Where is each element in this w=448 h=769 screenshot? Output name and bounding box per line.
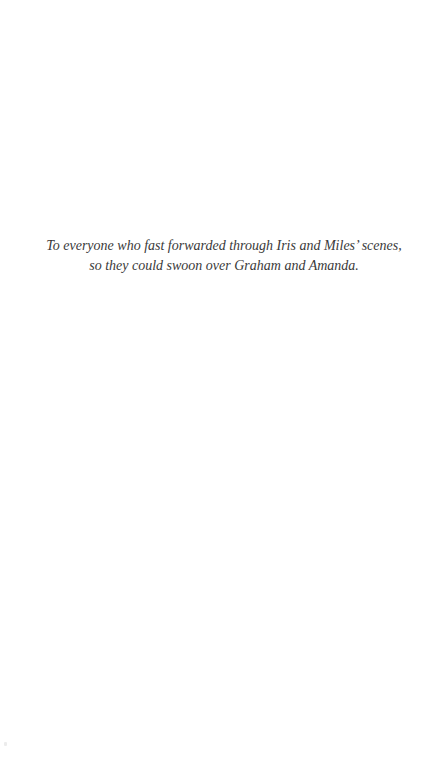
dedication-line-2: so they could swoon over Graham and Aman… — [0, 256, 448, 276]
scan-artifact-mark — [4, 742, 7, 746]
book-page: To everyone who fast forwarded through I… — [0, 0, 448, 769]
dedication-text: To everyone who fast forwarded through I… — [0, 236, 448, 276]
dedication-line-1: To everyone who fast forwarded through I… — [0, 236, 448, 256]
